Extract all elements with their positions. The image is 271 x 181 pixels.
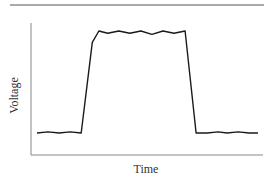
x-axis-label: Time bbox=[30, 162, 262, 177]
chart-canvas bbox=[0, 0, 271, 181]
voltage-time-chart: Voltage Time bbox=[0, 0, 271, 181]
y-axis-label: Voltage bbox=[4, 60, 24, 130]
voltage-waveform-line bbox=[37, 31, 258, 133]
y-axis-label-text: Voltage bbox=[7, 77, 22, 113]
